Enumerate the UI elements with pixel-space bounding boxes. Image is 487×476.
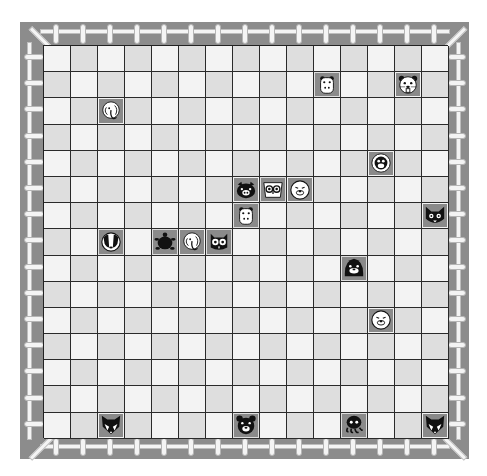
board-cell[interactable]: [179, 46, 206, 72]
board-cell[interactable]: [341, 308, 368, 334]
board-cell[interactable]: [233, 46, 260, 72]
board-cell[interactable]: [341, 98, 368, 124]
board-cell[interactable]: [125, 151, 152, 177]
board-cell[interactable]: [152, 360, 179, 386]
board-cell[interactable]: [152, 229, 179, 255]
board-cell[interactable]: [71, 125, 98, 151]
tile-hippo[interactable]: [234, 204, 258, 227]
board-cell[interactable]: [341, 256, 368, 282]
board-cell[interactable]: [368, 151, 395, 177]
board-cell[interactable]: [206, 334, 233, 360]
board-cell[interactable]: [179, 151, 206, 177]
board-cell[interactable]: [314, 98, 341, 124]
board-cell[interactable]: [233, 386, 260, 412]
board-cell[interactable]: [152, 308, 179, 334]
board-cell[interactable]: [206, 308, 233, 334]
tile-fox[interactable]: [423, 414, 447, 437]
board-cell[interactable]: [368, 308, 395, 334]
board-cell[interactable]: [287, 282, 314, 308]
board-cell[interactable]: [287, 203, 314, 229]
tile-pig[interactable]: [234, 178, 258, 201]
board-cell[interactable]: [341, 177, 368, 203]
board-cell[interactable]: [314, 308, 341, 334]
board-cell[interactable]: [260, 229, 287, 255]
board-cell[interactable]: [179, 203, 206, 229]
board-cell[interactable]: [368, 282, 395, 308]
board-cell[interactable]: [260, 98, 287, 124]
board-cell[interactable]: [287, 46, 314, 72]
board-cell[interactable]: [125, 177, 152, 203]
board-cell[interactable]: [422, 308, 449, 334]
board-cell[interactable]: [71, 386, 98, 412]
board-cell[interactable]: [206, 413, 233, 439]
tile-owl-dark[interactable]: [207, 230, 231, 253]
board-cell[interactable]: [287, 334, 314, 360]
board-cell[interactable]: [233, 256, 260, 282]
tile-owl[interactable]: [261, 178, 285, 201]
tile-octopus[interactable]: [342, 414, 366, 437]
board-cell[interactable]: [71, 229, 98, 255]
board-cell[interactable]: [152, 46, 179, 72]
board-cell[interactable]: [98, 72, 125, 98]
board-cell[interactable]: [71, 360, 98, 386]
board-cell[interactable]: [152, 334, 179, 360]
board-cell[interactable]: [368, 177, 395, 203]
board-cell[interactable]: [314, 256, 341, 282]
board-cell[interactable]: [314, 46, 341, 72]
board-cell[interactable]: [233, 282, 260, 308]
tile-elephant[interactable]: [180, 230, 204, 253]
board-cell[interactable]: [233, 229, 260, 255]
board-cell[interactable]: [98, 203, 125, 229]
board-cell[interactable]: [44, 360, 71, 386]
board-cell[interactable]: [98, 229, 125, 255]
board-cell[interactable]: [341, 413, 368, 439]
board-cell[interactable]: [314, 203, 341, 229]
board-cell[interactable]: [260, 203, 287, 229]
board-cell[interactable]: [125, 125, 152, 151]
board-cell[interactable]: [287, 125, 314, 151]
board-cell[interactable]: [179, 386, 206, 412]
board-cell[interactable]: [98, 413, 125, 439]
board-cell[interactable]: [314, 360, 341, 386]
board-cell[interactable]: [287, 229, 314, 255]
board-cell[interactable]: [71, 282, 98, 308]
board-cell[interactable]: [152, 151, 179, 177]
board-cell[interactable]: [98, 334, 125, 360]
board-cell[interactable]: [341, 151, 368, 177]
board-cell[interactable]: [233, 203, 260, 229]
board-cell[interactable]: [422, 334, 449, 360]
board-cell[interactable]: [179, 72, 206, 98]
board-cell[interactable]: [206, 203, 233, 229]
board-cell[interactable]: [44, 203, 71, 229]
board-cell[interactable]: [395, 413, 422, 439]
tile-seal[interactable]: [288, 178, 312, 201]
board-cell[interactable]: [260, 72, 287, 98]
board-cell[interactable]: [233, 334, 260, 360]
board-cell[interactable]: [287, 151, 314, 177]
tile-turtle[interactable]: [153, 230, 177, 253]
board-cell[interactable]: [260, 413, 287, 439]
board-cell[interactable]: [314, 151, 341, 177]
tile-beaver[interactable]: [396, 73, 420, 96]
board-cell[interactable]: [287, 360, 314, 386]
board-cell[interactable]: [152, 256, 179, 282]
board-cell[interactable]: [125, 229, 152, 255]
board-cell[interactable]: [179, 125, 206, 151]
tile-fox[interactable]: [99, 414, 123, 437]
board-cell[interactable]: [422, 72, 449, 98]
board-cell[interactable]: [314, 229, 341, 255]
board-cell[interactable]: [98, 151, 125, 177]
board-cell[interactable]: [341, 229, 368, 255]
board-cell[interactable]: [260, 46, 287, 72]
board-cell[interactable]: [206, 46, 233, 72]
board-cell[interactable]: [71, 308, 98, 334]
board-cell[interactable]: [44, 229, 71, 255]
board-cell[interactable]: [71, 203, 98, 229]
board-cell[interactable]: [260, 360, 287, 386]
board-cell[interactable]: [341, 360, 368, 386]
board-cell[interactable]: [44, 72, 71, 98]
board-cell[interactable]: [206, 229, 233, 255]
board-cell[interactable]: [341, 125, 368, 151]
board-cell[interactable]: [260, 177, 287, 203]
board-cell[interactable]: [179, 334, 206, 360]
